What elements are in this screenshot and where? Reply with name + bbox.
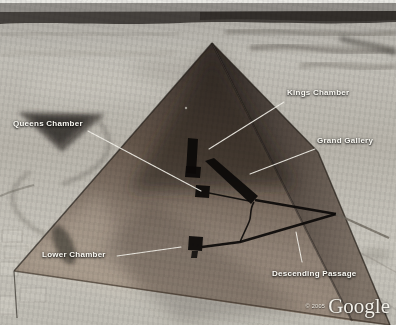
attribution: © 2005 Google — [306, 296, 390, 317]
google-logo: Google — [328, 296, 390, 317]
descending-passage-label: Descending Passage — [272, 269, 357, 278]
copyright-text: © 2005 — [306, 303, 326, 309]
queens-chamber-shape — [195, 185, 210, 198]
queens-chamber-label: Queens Chamber — [13, 119, 83, 128]
grand-gallery-label: Grand Gallery — [317, 136, 373, 145]
kings-chamber-label: Kings Chamber — [287, 88, 349, 97]
lower-chamber-label: Lower Chamber — [42, 250, 106, 259]
lower-chamber-shape — [188, 236, 203, 251]
earth-viewport[interactable]: Kings Chamber Queens Chamber Grand Galle… — [0, 0, 396, 325]
